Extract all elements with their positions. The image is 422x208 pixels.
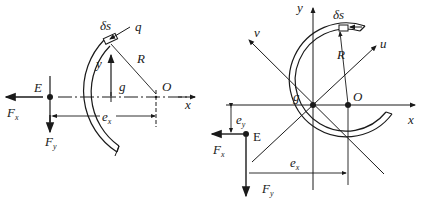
q-arrow — [110, 27, 130, 39]
label-R: R — [136, 51, 145, 66]
label-u: u — [380, 36, 387, 51]
label-ds: δs — [100, 18, 111, 33]
element-ds — [339, 25, 348, 31]
label-y: y — [295, 0, 303, 15]
label-ey: ey — [236, 112, 246, 129]
label-Fy: Fy — [44, 134, 57, 151]
label-Fx: Fx — [212, 142, 225, 159]
label-ds: δs — [333, 7, 344, 22]
label-O: O — [353, 89, 363, 104]
label-ex: ex — [290, 155, 300, 172]
label-ex: ex — [102, 109, 112, 126]
O-point — [345, 102, 351, 108]
label-Fx: Fx — [6, 105, 19, 122]
label-R: R — [336, 47, 345, 62]
label-y: y — [94, 56, 102, 71]
left-figure: δs q R y g O x E Fx Fy ex — [6, 18, 195, 156]
E-point — [243, 131, 249, 137]
O-point — [155, 96, 157, 98]
label-q: q — [135, 19, 142, 34]
label-O: O — [162, 79, 172, 94]
label-E: E — [33, 80, 42, 95]
E-point — [47, 94, 53, 100]
v-axis — [249, 40, 384, 174]
label-g: g — [119, 79, 126, 94]
centroid-point — [310, 102, 316, 108]
arc-section — [84, 33, 119, 156]
right-figure: y δs v u R g O x E ey Fx ex Fy — [212, 0, 415, 198]
label-E: E — [253, 129, 261, 144]
label-v: v — [254, 25, 260, 40]
label-Fy: Fy — [261, 181, 274, 198]
radius-line — [340, 32, 348, 104]
diagram-canvas: δs q R y g O x E Fx Fy ex — [0, 0, 422, 208]
radius-line — [111, 44, 156, 94]
label-x: x — [407, 112, 414, 127]
label-g: g — [293, 89, 300, 104]
label-x: x — [184, 97, 191, 112]
